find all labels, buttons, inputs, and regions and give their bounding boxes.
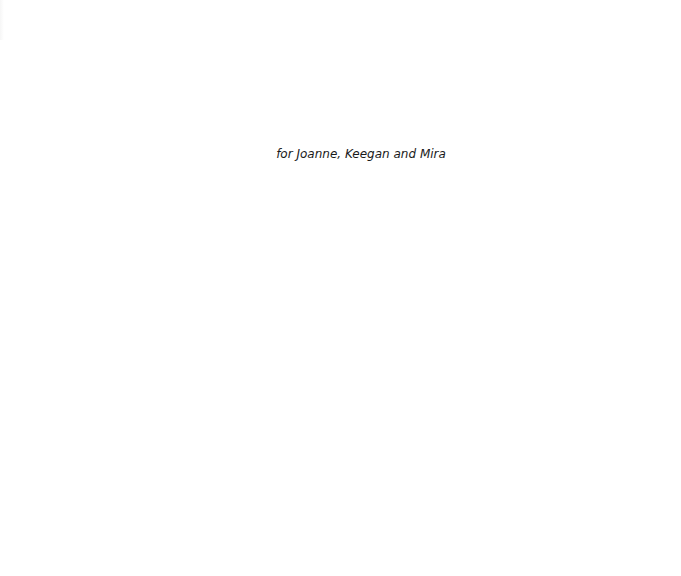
page-edge-shadow (0, 0, 4, 40)
document-page: for Joanne, Keegan and Mira (0, 0, 681, 576)
dedication-text: for Joanne, Keegan and Mira (0, 147, 681, 161)
